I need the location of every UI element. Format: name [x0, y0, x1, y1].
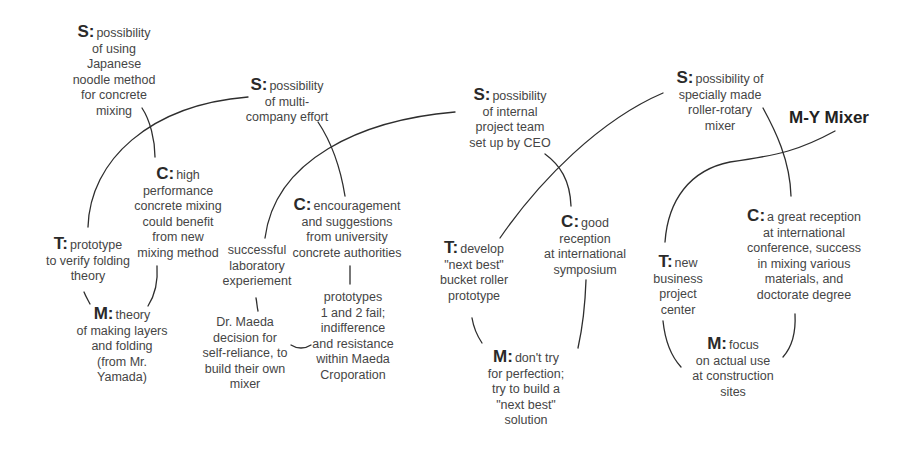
node-m1: M:theory of making layers and folding (f…: [72, 306, 172, 386]
node-c2: C:encouragement and suggestions from uni…: [288, 197, 406, 261]
spiral-diagram: S:possibility of using Japanese noodle m…: [0, 0, 914, 452]
arc-t3-to-m3: [472, 318, 482, 343]
arc-t1-to-m1: [84, 292, 90, 304]
node-m3: M:don't try for perfection; try to build…: [482, 349, 570, 429]
arc-c3-to-m3: [578, 280, 586, 348]
arc-s3-to-c3: [545, 154, 571, 206]
node-p2: prototypes 1 and 2 fail; indifference an…: [310, 290, 396, 383]
node-m4: M:focus on actual use at construction si…: [688, 336, 778, 400]
arc-m2-to-p2: [291, 345, 311, 348]
arc-c1-to-m1: [148, 266, 157, 306]
node-s2: S:possibility of multi- company effort: [242, 77, 332, 126]
node-c3: C:good reception at international sympos…: [541, 214, 629, 278]
node-s1: S:possibility of using Japanese noodle m…: [66, 24, 162, 119]
node-m2: Dr. Maeda decision for self-reliance, to…: [198, 315, 292, 393]
node-s3: S:possibility of internal project team s…: [465, 87, 555, 151]
node-t4: T:new business project center: [648, 254, 708, 318]
diagram-title: M-Y Mixer: [789, 108, 869, 128]
node-s4: S:possibility of specially made roller-r…: [672, 70, 768, 134]
node-t2: successful laboratory experiement: [218, 243, 296, 290]
node-t3: T:develop "next best" bucket roller prot…: [434, 240, 514, 304]
node-c4: C:a great reception at international con…: [740, 208, 868, 303]
arc-s2-to-c2: [318, 122, 345, 196]
node-t1: T:prototype to verify folding theory: [42, 236, 134, 285]
arc-c4-to-m4: [783, 314, 795, 357]
arc-t4-to-m4: [663, 321, 681, 367]
arc-t2-to-m2: [256, 298, 258, 311]
node-c1: C:high performance concrete mixing could…: [128, 166, 228, 261]
